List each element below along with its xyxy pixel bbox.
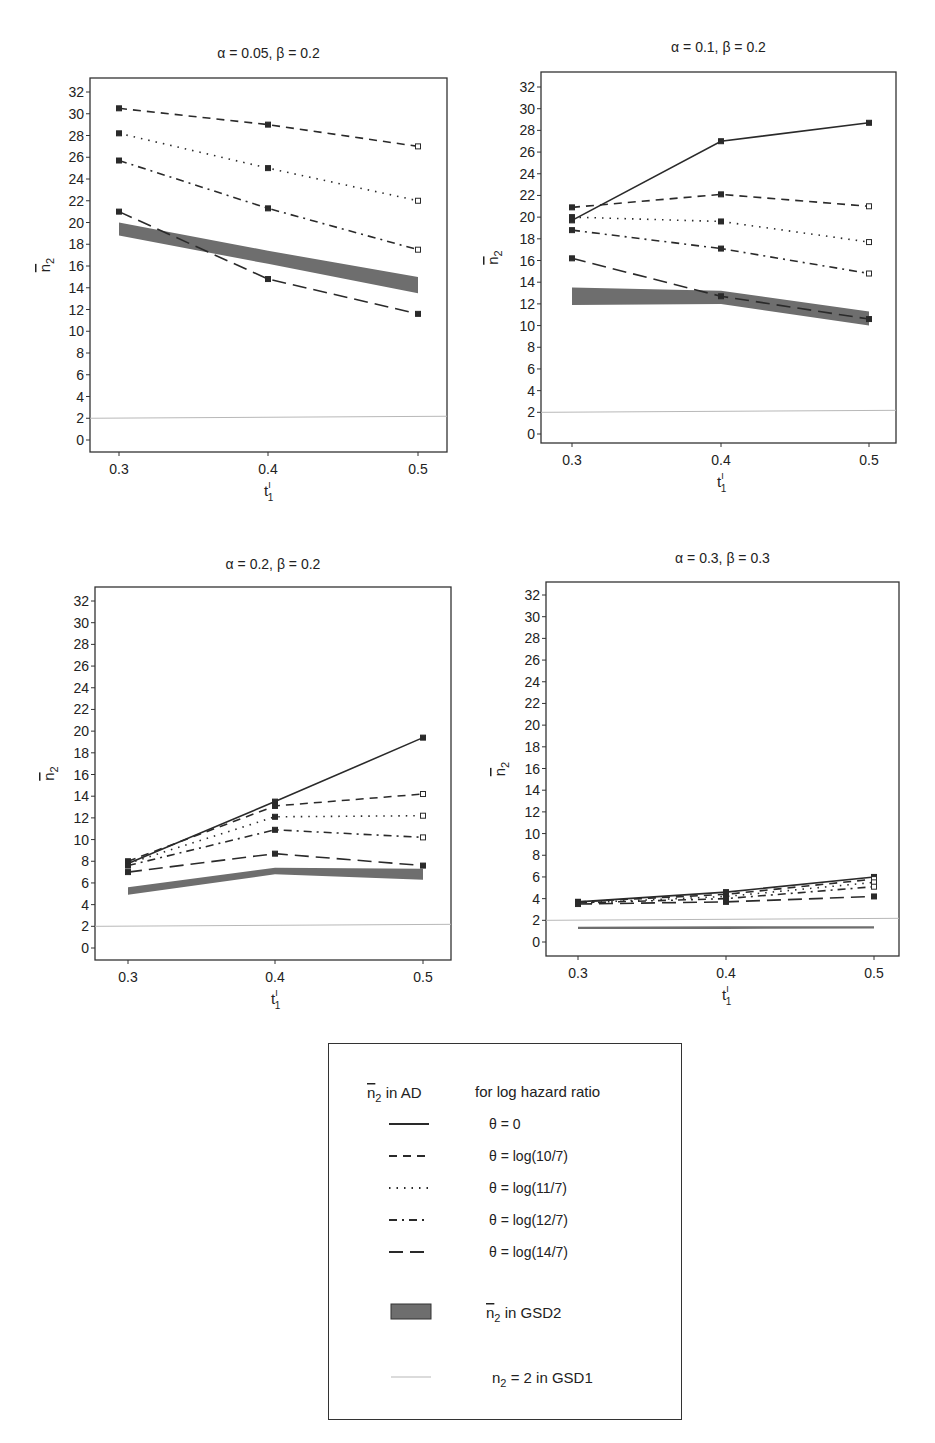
- y-tick-label: 4: [76, 389, 84, 405]
- data-point-marker: [416, 144, 421, 149]
- chart-panel-1: α = 0.05, β = 0.202468101214161820222426…: [36, 45, 447, 503]
- gsd1-reference-line: [95, 924, 451, 926]
- y-tick-label: 12: [519, 296, 535, 312]
- chart-panel-4: α = 0.3, β = 0.3024681012141618202224262…: [491, 550, 899, 1007]
- y-tick-label: 8: [76, 345, 84, 361]
- data-point-marker: [719, 219, 724, 224]
- data-point-marker: [724, 899, 729, 904]
- x-tick-label: 0.5: [864, 965, 884, 981]
- svg-text:n2 in AD: n2 in AD: [367, 1084, 422, 1104]
- y-tick-label: 2: [527, 404, 535, 420]
- data-point-marker: [570, 215, 575, 220]
- panel-title: α = 0.2, β = 0.2: [226, 556, 321, 572]
- chart-panel-2: α = 0.1, β = 0.2024681012141618202224262…: [484, 39, 896, 494]
- panel-title: α = 0.05, β = 0.2: [217, 45, 320, 61]
- y-tick-label: 4: [527, 383, 535, 399]
- x-axis: 0.30.40.5: [109, 452, 428, 477]
- plot-frame: [95, 587, 451, 960]
- panel-title: α = 0.1, β = 0.2: [671, 39, 766, 55]
- data-point-marker: [126, 870, 131, 875]
- y-tick-label: 14: [73, 788, 89, 804]
- data-point-marker: [416, 198, 421, 203]
- svg-text:n2: n2: [491, 762, 511, 776]
- y-tick-label: 0: [81, 940, 89, 956]
- plot-frame: [90, 78, 447, 452]
- x-axis-label: tI1: [264, 480, 274, 503]
- y-tick-label: 6: [76, 367, 84, 383]
- y-tick-label: 18: [524, 739, 540, 755]
- y-tick-label: 30: [524, 609, 540, 625]
- data-point-marker: [416, 311, 421, 316]
- y-axis: 02468101214161820222426283032: [68, 84, 90, 448]
- data-point-marker: [421, 735, 426, 740]
- series-line: [570, 192, 872, 210]
- chart-panel-3: α = 0.2, β = 0.2024681012141618202224262…: [40, 556, 451, 1011]
- gsd2-band: [119, 223, 418, 294]
- y-tick-label: 30: [519, 101, 535, 117]
- chart-panels: α = 0.05, β = 0.202468101214161820222426…: [36, 39, 899, 1011]
- data-point-marker: [273, 814, 278, 819]
- data-point-marker: [117, 209, 122, 214]
- y-tick-label: 28: [68, 128, 84, 144]
- legend-item-label: θ = log(12/7): [489, 1212, 568, 1228]
- data-point-marker: [273, 827, 278, 832]
- legend-item-gsd1: n2 = 2 in GSD1: [391, 1369, 593, 1389]
- data-point-marker: [867, 204, 872, 209]
- x-axis-label: tI1: [271, 988, 281, 1011]
- y-tick-label: 6: [81, 875, 89, 891]
- x-axis-label: tI1: [717, 471, 727, 494]
- gsd2-label-suffix: in GSD2: [500, 1304, 561, 1321]
- y-tick-label: 18: [68, 236, 84, 252]
- y-tick-label: 24: [519, 166, 535, 182]
- x-tick-label: 0.5: [859, 452, 879, 468]
- legend-item-label: θ = log(10/7): [489, 1148, 568, 1164]
- svg-text:n2: n2: [484, 250, 504, 264]
- series-line: [117, 131, 421, 203]
- y-tick-label: 0: [76, 432, 84, 448]
- data-point-marker: [421, 835, 426, 840]
- series-line: [570, 215, 872, 245]
- series-line: [126, 735, 426, 866]
- x-tick-label: 0.5: [413, 969, 433, 985]
- data-point-marker: [576, 902, 581, 907]
- data-point-marker: [273, 803, 278, 808]
- plot-frame: [541, 72, 896, 443]
- data-point-marker: [872, 884, 877, 889]
- svg-text:n2 in GSD2: n2 in GSD2: [486, 1304, 561, 1324]
- y-tick-label: 10: [524, 826, 540, 842]
- legend-item-label: θ = log(14/7): [489, 1244, 568, 1260]
- x-tick-label: 0.3: [118, 969, 138, 985]
- x-tick-label: 0.3: [568, 965, 588, 981]
- data-point-marker: [867, 240, 872, 245]
- data-point-marker: [719, 192, 724, 197]
- y-tick-label: 14: [68, 280, 84, 296]
- y-tick-label: 18: [519, 231, 535, 247]
- y-tick-label: 32: [519, 79, 535, 95]
- x-tick-label: 0.5: [408, 461, 428, 477]
- x-tick-label: 0.4: [265, 969, 285, 985]
- y-tick-label: 30: [68, 106, 84, 122]
- legend-item: θ = log(14/7): [389, 1244, 568, 1260]
- legend-item-label: θ = log(11/7): [489, 1180, 567, 1196]
- y-axis-label: n2: [491, 762, 511, 776]
- y-tick-label: 24: [73, 680, 89, 696]
- y-tick-label: 8: [532, 847, 540, 863]
- x-tick-label: 0.3: [109, 461, 129, 477]
- data-point-marker: [117, 106, 122, 111]
- y-tick-label: 32: [68, 84, 84, 100]
- y-tick-label: 2: [76, 410, 84, 426]
- y-tick-label: 2: [532, 912, 540, 928]
- data-point-marker: [266, 206, 271, 211]
- gsd1-label-n: n: [492, 1369, 500, 1386]
- x-axis: 0.30.40.5: [562, 443, 879, 468]
- y-tick-label: 18: [73, 745, 89, 761]
- y-tick-label: 16: [519, 253, 535, 269]
- data-point-marker: [719, 246, 724, 251]
- x-axis: 0.30.40.5: [118, 960, 433, 985]
- y-tick-label: 24: [524, 674, 540, 690]
- legend-canvas: n2 in AD for log hazard ratio θ = 0θ = l…: [329, 1044, 683, 1421]
- y-tick-label: 24: [68, 171, 84, 187]
- y-tick-label: 8: [81, 853, 89, 869]
- x-tick-label: 0.4: [716, 965, 736, 981]
- data-point-marker: [570, 205, 575, 210]
